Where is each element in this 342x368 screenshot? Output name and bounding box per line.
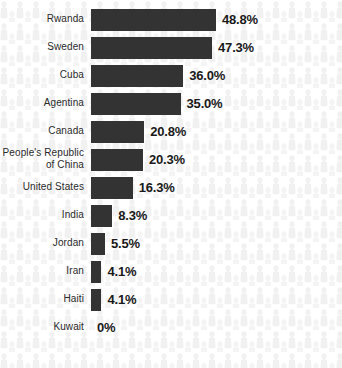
value-label: 8.3% [118, 208, 147, 223]
bar [91, 121, 144, 143]
category-label: Agentina [0, 97, 84, 109]
value-label: 35.0% [187, 96, 223, 111]
value-label: 36.0% [189, 68, 225, 83]
value-label: 20.8% [150, 124, 186, 139]
category-label: Kuwait [0, 321, 84, 333]
value-label: 16.3% [139, 180, 175, 195]
category-label: India [0, 209, 84, 221]
category-label: Iran [0, 265, 84, 277]
category-label: Sweden [0, 41, 84, 53]
bar [91, 37, 212, 59]
category-label: Jordan [0, 237, 84, 249]
chart-row: Agentina35.0% [0, 92, 342, 116]
bar [91, 261, 101, 283]
value-label: 0% [97, 320, 115, 335]
category-label: Haiti [0, 293, 84, 305]
bar [91, 233, 105, 255]
category-label: Canada [0, 125, 84, 137]
value-label: 5.5% [111, 236, 140, 251]
chart-row: Iran4.1% [0, 260, 342, 284]
plot-area: Rwanda48.8%Sweden47.3%Cuba36.0%Agentina3… [0, 0, 342, 368]
category-label: People's Republic of China [0, 147, 84, 170]
bar [91, 65, 183, 87]
chart-row: Cuba36.0% [0, 64, 342, 88]
chart-row: People's Republic of China20.3% [0, 148, 342, 172]
bar [91, 289, 101, 311]
category-label: United States [0, 181, 84, 193]
chart-row: Rwanda48.8% [0, 8, 342, 32]
chart-row: Haiti4.1% [0, 288, 342, 312]
bar [91, 205, 112, 227]
value-label: 48.8% [222, 12, 258, 27]
bar [91, 9, 216, 31]
bar-chart: Rwanda48.8%Sweden47.3%Cuba36.0%Agentina3… [0, 0, 342, 368]
chart-row: Jordan5.5% [0, 232, 342, 256]
bar [91, 93, 181, 115]
chart-row: Sweden47.3% [0, 36, 342, 60]
value-label: 4.1% [107, 292, 136, 307]
value-label: 4.1% [107, 264, 136, 279]
bar [91, 177, 133, 199]
category-label: Rwanda [0, 13, 84, 25]
category-label: Cuba [0, 69, 84, 81]
chart-row: United States16.3% [0, 176, 342, 200]
chart-row: Kuwait0% [0, 316, 342, 340]
chart-row: Canada20.8% [0, 120, 342, 144]
chart-row: India8.3% [0, 204, 342, 228]
bar [91, 149, 143, 171]
value-label: 47.3% [218, 40, 254, 55]
value-label: 20.3% [149, 152, 185, 167]
